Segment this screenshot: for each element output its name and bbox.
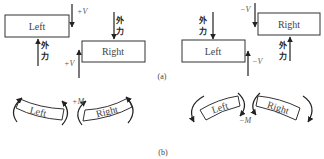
left-box-label: Left	[29, 21, 46, 32]
moment-label-plus-m: +M	[72, 97, 85, 106]
external-force-label-right-2: 力	[116, 26, 124, 36]
external-force-label-neg-left-1: 外	[199, 15, 207, 25]
left-box-negative: Left	[182, 40, 245, 62]
caption-b: (b)	[158, 148, 168, 157]
caption-a: (a)	[158, 72, 167, 81]
shear-label-minus-v-bottom: −V	[252, 57, 263, 66]
negative-shear-group: Right −V 外 力 Left 外 力 −V	[182, 3, 320, 76]
shear-label-plus-v-bottom: +V	[64, 59, 75, 68]
left-segment-positive: Left	[16, 99, 64, 120]
external-force-label-neg-left-2: 力	[199, 26, 207, 36]
positive-moment-group: Left Right +M	[13, 97, 133, 125]
right-box-negative: Right	[258, 13, 320, 35]
shear-label-minus-v-top: −V	[240, 5, 251, 14]
positive-shear-group: Left +V 外 力 Right 外 力 +V	[5, 4, 145, 78]
moment-arrow-neg-cw-right-icon	[303, 96, 312, 122]
right-segment-negative: Right	[256, 96, 300, 120]
negative-moment-group: Left Right −M	[192, 93, 312, 125]
left-box-negative-label: Left	[205, 46, 222, 57]
right-segment-negative-label: Right	[266, 99, 291, 116]
external-force-label-neg-right-2: 力	[279, 51, 287, 61]
right-box: Right	[82, 41, 145, 62]
right-segment-positive: Right	[83, 98, 132, 121]
external-force-label-left-2: 力	[41, 51, 49, 61]
external-force-label-neg-right-1: 外	[279, 40, 287, 50]
left-segment-negative-label: Left	[210, 100, 229, 116]
right-box-label: Right	[102, 46, 124, 57]
moment-label-minus-m: −M	[239, 116, 252, 125]
shear-moment-sign-convention-diagram: Left +V 外 力 Right 外 力 +V Right −V 外	[0, 0, 324, 159]
external-force-label-left-1: 外	[41, 40, 49, 50]
left-segment-negative: Left	[200, 96, 240, 120]
right-box-negative-label: Right	[278, 19, 300, 30]
external-force-label-right-1: 外	[116, 15, 124, 25]
shear-label-plus-v-top: +V	[77, 7, 88, 16]
left-box: Left	[5, 15, 69, 37]
right-segment-positive-label: Right	[95, 103, 119, 119]
